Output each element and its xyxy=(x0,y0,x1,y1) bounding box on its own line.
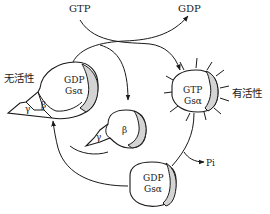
gtp-label: GTP xyxy=(69,3,91,14)
inactive-g-protein-complex: GDP Gsα β γ xyxy=(8,62,98,119)
g-protein-cycle-diagram: GTP GDP GDP Gsα β γ 无活性 xyxy=(0,0,270,214)
hydrolyzed-gdp-text: GDP xyxy=(143,173,163,183)
pi-label: Pi xyxy=(206,158,215,168)
hydrolyzed-gsa-text: Gsα xyxy=(144,184,162,194)
active-gsa-text: Gsα xyxy=(184,96,202,106)
hydrolysis-arrow xyxy=(172,113,204,166)
hydrolyzed-gsa: GDP Gsα xyxy=(130,162,176,206)
free-gamma-text: γ xyxy=(96,132,101,142)
gdp-release-arrow xyxy=(73,16,188,62)
inactive-beta-text: β xyxy=(41,100,46,110)
active-label: 有活性 xyxy=(232,87,262,99)
inactive-gsa-text: Gsα xyxy=(65,86,83,96)
gtp-to-active-arrow xyxy=(80,20,180,70)
inactive-gdp-text: GDP xyxy=(64,75,84,85)
inactive-label: 无活性 xyxy=(4,72,34,84)
active-gsa: GTP Gsα xyxy=(164,58,229,121)
free-beta-text: β xyxy=(122,125,127,135)
inactive-gamma-text: γ xyxy=(25,104,30,114)
active-gtp-text: GTP xyxy=(183,85,202,95)
free-beta-gamma: β γ xyxy=(86,110,146,148)
gdp-label: GDP xyxy=(178,3,201,14)
dissociation-arrow xyxy=(100,45,128,100)
